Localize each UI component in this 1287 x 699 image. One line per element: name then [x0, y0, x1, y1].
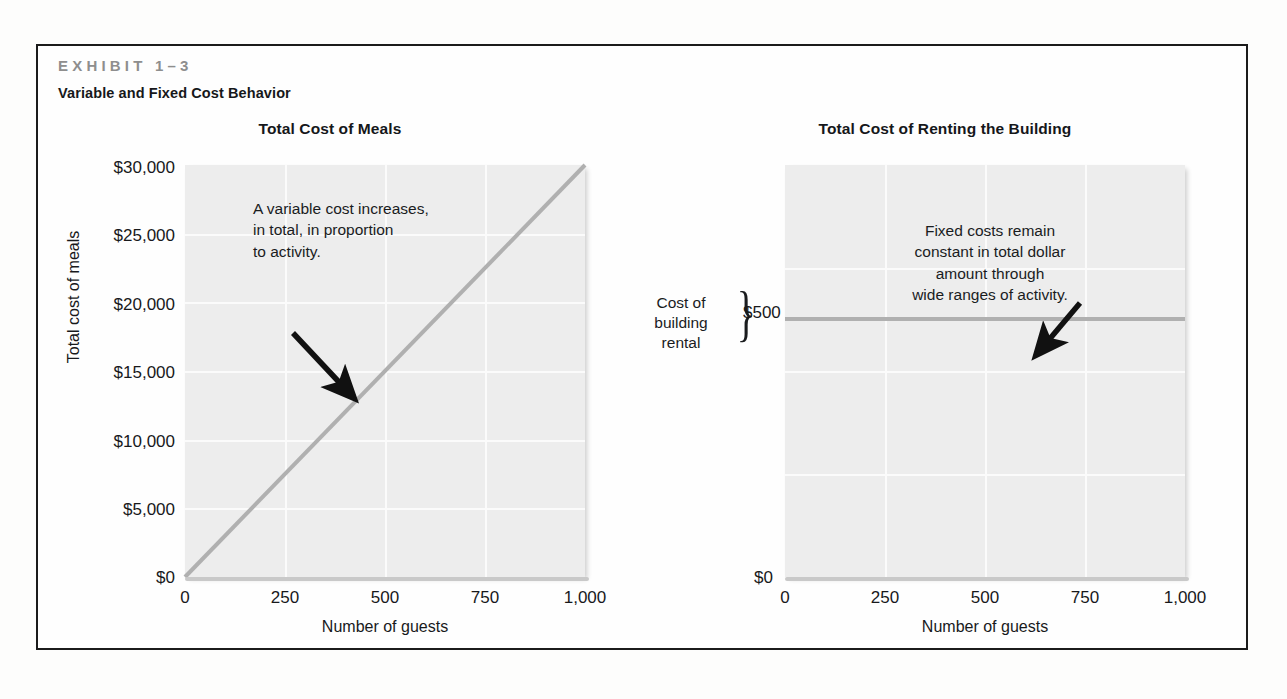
x-tick-label: 250: [250, 588, 320, 608]
exhibit-page: EXHIBIT 1–3 Variable and Fixed Cost Beha…: [0, 0, 1287, 699]
chart-panel-total-cost-of-meals: Total Cost of Meals $30,000 $25,000 $20,…: [60, 110, 630, 630]
callout-label-building-rental: Cost of building rental: [635, 293, 727, 353]
annotation-fixed-cost: Fixed costs remain constant in total dol…: [875, 220, 1105, 306]
x-axis-title-right: Number of guests: [785, 618, 1185, 636]
y-tick-label: $0: [55, 568, 175, 588]
annotation-variable-cost: A variable cost increases, in total, in …: [253, 198, 429, 262]
y-tick-label-500: $500: [743, 303, 781, 323]
exhibit-title: Variable and Fixed Cost Behavior: [58, 85, 291, 101]
x-axis-baseline-right: [785, 577, 1189, 581]
x-tick-label: 250: [850, 588, 920, 608]
y-tick-label: $10,000: [55, 432, 175, 452]
x-tick-label: 750: [450, 588, 520, 608]
y-axis-title-left: Total cost of meals: [65, 231, 83, 364]
x-tick-label: 1,000: [1150, 588, 1220, 608]
chart-panel-total-cost-of-renting: Total Cost of Renting the Building Cost …: [645, 110, 1225, 630]
y-tick-label: $15,000: [55, 363, 175, 383]
x-axis-baseline-left: [185, 577, 589, 581]
x-tick-label: 500: [950, 588, 1020, 608]
x-tick-label: 1,000: [550, 588, 620, 608]
x-axis-title-left: Number of guests: [185, 618, 585, 636]
x-tick-label: 0: [750, 588, 820, 608]
annotation-arrow-left: [285, 325, 405, 435]
annotation-arrow-right: [1025, 298, 1125, 388]
exhibit-number: EXHIBIT 1–3: [58, 57, 193, 74]
x-tick-label: 750: [1050, 588, 1120, 608]
chart-title-left: Total Cost of Meals: [120, 120, 540, 138]
y-tick-label: $5,000: [55, 500, 175, 520]
y-tick-label: $0: [693, 568, 773, 588]
x-tick-label: 0: [150, 588, 220, 608]
x-tick-label: 500: [350, 588, 420, 608]
chart-title-right: Total Cost of Renting the Building: [720, 120, 1170, 138]
y-tick-label: $30,000: [55, 158, 175, 178]
